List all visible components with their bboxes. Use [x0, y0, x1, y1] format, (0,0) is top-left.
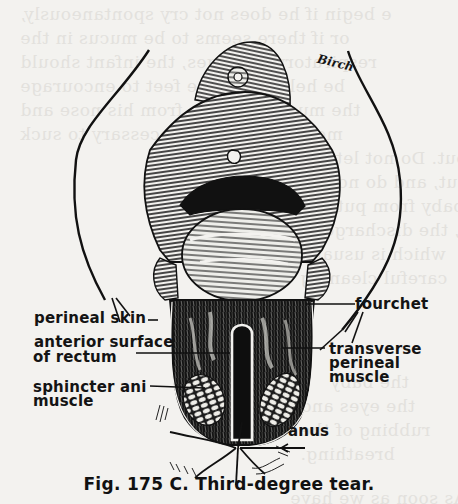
inner-bulge [182, 209, 302, 301]
label-of-rectum: of rectum [33, 350, 117, 364]
figure-caption: Fig. 175 C. Third-degree tear. [0, 474, 458, 494]
label-fourchet: fourchet [355, 297, 428, 311]
scanned-page: e begin if he does not cry spontaneously… [0, 0, 458, 504]
right-thigh-outline [342, 51, 401, 330]
label-perineal-skin: perineal skin [34, 311, 146, 325]
label-anterior-surface: anterior surface [34, 335, 174, 349]
left-thigh-outline [74, 50, 149, 300]
third-degree-tear-illustration [0, 0, 458, 504]
label-anus: anus [288, 424, 329, 438]
label-transverse-muscle: muscle [329, 370, 390, 384]
label-sphincter-muscle: muscle [33, 394, 94, 408]
